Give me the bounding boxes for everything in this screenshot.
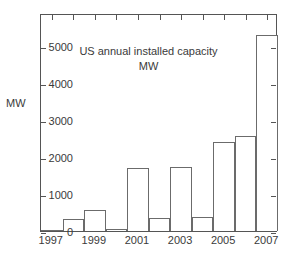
y-tick-right-2000	[271, 159, 276, 160]
bar-2001	[127, 168, 149, 231]
x-tick-top-2004	[203, 15, 204, 20]
bar-2006	[235, 136, 257, 231]
y-tick-label-5000: 5000	[27, 42, 73, 53]
x-tick-top-2002	[160, 15, 161, 20]
x-tick-top-1999	[95, 15, 96, 20]
y-tick-label-3000: 3000	[27, 116, 73, 127]
y-tick-right-3000	[271, 122, 276, 123]
bar-1999	[84, 210, 106, 231]
bar-2007	[256, 35, 278, 231]
y-tick-label-1000: 1000	[27, 190, 73, 201]
x-tick-top-2006	[246, 15, 247, 20]
x-tick-top-1997	[52, 15, 53, 20]
x-tick-label-1997: 1997	[29, 235, 73, 246]
x-tick-top-2007	[267, 15, 268, 20]
y-tick-label-2000: 2000	[27, 153, 73, 164]
y-axis-unit-label: MW	[6, 97, 38, 108]
x-tick-label-2005: 2005	[201, 235, 245, 246]
bar-2000	[106, 229, 128, 231]
x-tick-top-1998	[73, 15, 74, 20]
y-tick-right-1000	[271, 196, 276, 197]
bar-2002	[149, 218, 171, 231]
x-tick-top-2005	[224, 15, 225, 20]
chart-figure: US annual installed capacity MW MW 01000…	[0, 0, 297, 268]
x-tick-label-2003: 2003	[158, 235, 202, 246]
y-tick-right-5000	[271, 48, 276, 49]
x-tick-label-2001: 2001	[115, 235, 159, 246]
bar-2004	[192, 217, 214, 231]
x-tick-top-2001	[138, 15, 139, 20]
x-tick-label-1999: 1999	[72, 235, 116, 246]
x-tick-top-2000	[116, 15, 117, 20]
y-tick-right-4000	[271, 85, 276, 86]
bar-2005	[213, 142, 235, 231]
y-tick-label-4000: 4000	[27, 79, 73, 90]
plot-area	[40, 14, 277, 232]
x-tick-label-2007: 2007	[244, 235, 288, 246]
bar-2003	[170, 167, 192, 231]
x-tick-top-2003	[181, 15, 182, 20]
